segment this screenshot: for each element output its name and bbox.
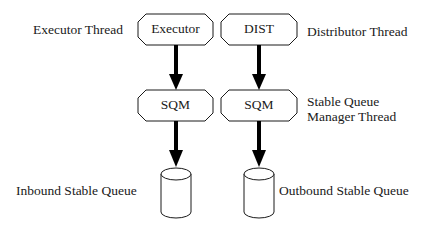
inbound-queue-cylinder-icon bbox=[161, 168, 191, 218]
dist-node: DIST bbox=[221, 21, 297, 37]
inbound-queue-label: Inbound Stable Queue bbox=[16, 183, 137, 199]
sqm-left-node: SQM bbox=[138, 97, 213, 113]
arrow-sqm-to-outbound bbox=[252, 121, 266, 167]
arrow-dist-to-sqm bbox=[252, 45, 266, 90]
distributor-thread-label: Distributor Thread bbox=[307, 24, 408, 40]
sqm-thread-label-line2: Manager Thread bbox=[307, 109, 396, 125]
sqm-right-node: SQM bbox=[221, 97, 297, 113]
executor-thread-label: Executor Thread bbox=[33, 22, 123, 38]
outbound-queue-label: Outbound Stable Queue bbox=[279, 183, 409, 199]
executor-node: Executor bbox=[138, 21, 213, 37]
outbound-queue-cylinder-icon bbox=[244, 168, 274, 218]
arrow-sqm-to-inbound bbox=[169, 121, 183, 167]
sqm-thread-label-line1: Stable Queue bbox=[307, 94, 379, 110]
arrow-executor-to-sqm bbox=[169, 45, 183, 90]
